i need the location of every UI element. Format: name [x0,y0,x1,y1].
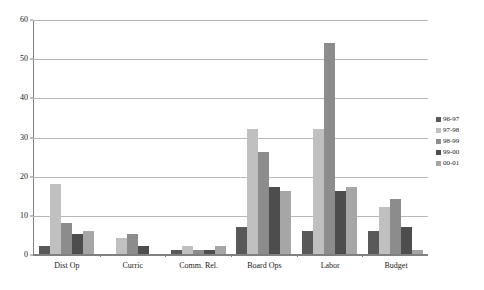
bar [83,231,94,255]
bar [346,187,357,254]
legend-swatch-icon [436,161,441,166]
bar [302,231,313,255]
legend-swatch-icon [436,128,441,133]
bar [138,246,149,254]
bar [269,187,280,254]
bar-group [231,20,297,254]
bar [215,246,226,254]
legend-swatch-icon [436,139,441,144]
bar [401,227,412,254]
bar [247,129,258,254]
bar-group [34,20,100,254]
bar-group [362,20,428,254]
legend-swatch-icon [436,150,441,155]
y-tick-mark [30,59,33,60]
y-tick-label: 50 [20,55,28,63]
bar [390,199,401,254]
y-tick-label: 0 [24,251,28,259]
x-axis-label: Dist Op [34,262,100,270]
legend-item[interactable]: 96-97 [436,114,482,125]
bar [280,191,291,254]
chart-legend: 96-9797-9898-9999-0000-01 [436,114,482,169]
legend-label: 99-00 [443,149,459,156]
legend-label: 98-99 [443,138,459,145]
bar [50,184,61,255]
plot-area: 0102030405060 [33,20,428,255]
bar [182,246,193,254]
legend-label: 00-01 [443,160,459,167]
bar-chart: 0102030405060 Dist OpCurricComm. Rel.Boa… [0,0,484,290]
legend-label: 96-97 [443,116,459,123]
bar [39,246,50,254]
x-axis-label: Comm. Rel. [166,262,232,270]
x-axis-line [33,254,428,255]
y-tick-mark [30,20,33,21]
bars-layer [34,20,428,254]
y-tick-label: 30 [20,134,28,142]
bar [313,129,324,254]
y-tick-label: 40 [20,94,28,102]
y-tick-mark [30,215,33,216]
bar-group [100,20,166,254]
bar [116,238,127,254]
bar [379,207,390,254]
legend-item[interactable]: 97-98 [436,125,482,136]
x-axis-label: Labor [297,262,363,270]
bar [61,223,72,254]
y-tick-label: 20 [20,173,28,181]
legend-item[interactable]: 99-00 [436,147,482,158]
legend-item[interactable]: 00-01 [436,158,482,169]
bar-group [297,20,363,254]
y-tick-mark [30,98,33,99]
y-tick-mark [30,176,33,177]
bar [127,234,138,254]
x-axis-label: Curric [100,262,166,270]
x-axis-labels: Dist OpCurricComm. Rel.Board OpsLaborBud… [34,262,429,270]
y-tick-label: 10 [20,212,28,220]
x-axis-label: Budget [363,262,429,270]
y-tick-mark [30,137,33,138]
bar [335,191,346,254]
bar [72,234,83,254]
x-axis-label: Board Ops [231,262,297,270]
bar [324,43,335,255]
legend-label: 97-98 [443,127,459,134]
y-tick-label: 60 [20,16,28,24]
legend-swatch-icon [436,117,441,122]
bar-group [165,20,231,254]
bar [236,227,247,254]
legend-item[interactable]: 98-99 [436,136,482,147]
bar [368,231,379,255]
bar [258,152,269,254]
